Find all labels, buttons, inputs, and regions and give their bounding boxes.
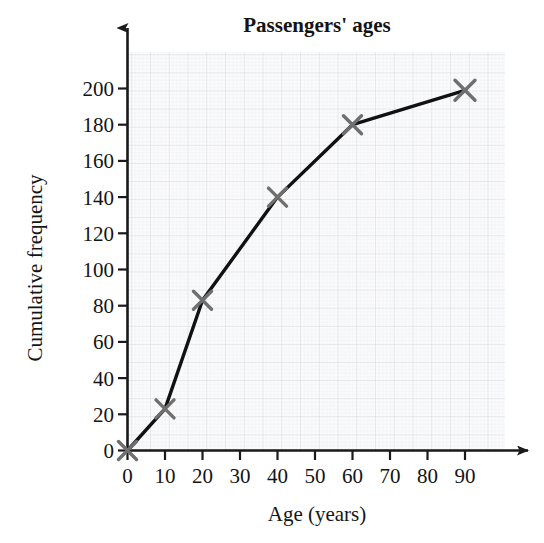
x-tick-label: 90 — [455, 464, 476, 488]
chart-canvas: 0 20 40 60 80 100 120 140 160 180 200 0 … — [0, 0, 544, 543]
chart-title: Passengers' ages — [243, 13, 391, 37]
y-tick-label: 120 — [83, 222, 115, 246]
x-tick-label: 60 — [342, 464, 363, 488]
y-tick-label: 0 — [104, 439, 115, 463]
x-axis-title: Age (years) — [268, 502, 367, 526]
x-tick-label: 50 — [305, 464, 326, 488]
y-tick-labels: 0 20 40 60 80 100 120 140 160 180 200 — [83, 77, 115, 463]
y-tick-label: 80 — [93, 294, 114, 318]
y-tick-label: 100 — [83, 258, 115, 282]
x-tick-label: 20 — [192, 464, 213, 488]
x-tick-label: 70 — [380, 464, 401, 488]
x-tick-labels: 0 10 20 30 40 50 60 70 80 90 — [122, 464, 475, 488]
x-tick-label: 10 — [155, 464, 176, 488]
y-axis-title: Cumulative frequency — [23, 174, 47, 362]
plot-grid-area — [128, 52, 505, 452]
y-tick-label: 20 — [93, 403, 114, 427]
y-axis-ticks — [118, 89, 128, 451]
y-tick-label: 140 — [83, 186, 115, 210]
cumulative-frequency-chart: 0 20 40 60 80 100 120 140 160 180 200 0 … — [0, 0, 544, 543]
x-tick-label: 30 — [230, 464, 251, 488]
y-tick-label: 60 — [93, 330, 114, 354]
y-tick-label: 180 — [83, 113, 115, 137]
x-tick-label: 0 — [122, 464, 133, 488]
y-tick-label: 200 — [83, 77, 115, 101]
y-tick-label: 160 — [83, 149, 115, 173]
y-tick-label: 40 — [93, 367, 114, 391]
y-axis — [118, 28, 128, 451]
x-tick-label: 80 — [417, 464, 438, 488]
x-tick-label: 40 — [267, 464, 288, 488]
